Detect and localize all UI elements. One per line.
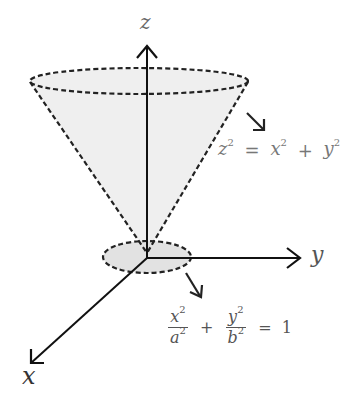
ellipse-eq-rhs: 1 — [282, 318, 292, 337]
cone-eq-equals: = — [245, 140, 260, 161]
cone-eq-term2: y — [324, 138, 334, 159]
ellipse-eq-frac-x: x2 a2 — [168, 307, 188, 348]
ellipse-eq-den-b: b2 — [226, 328, 247, 348]
cone-eq-lhs-exp: 2 — [227, 137, 233, 148]
ellipse-eq-equals: = — [258, 318, 271, 337]
z-axis-label: z — [140, 10, 151, 34]
x-axis — [31, 258, 147, 363]
ellipse-equation: x2 a2 + y2 b2 = 1 — [166, 307, 297, 348]
ellipse-eq-frac-y: y2 b2 — [226, 307, 247, 348]
cone-eq-plus: + — [298, 140, 313, 161]
cone-pointer-arrow — [247, 113, 263, 129]
cone-eq-term1: x — [270, 138, 280, 159]
ellipse-eq-plus: + — [200, 318, 213, 337]
cone-equation: z2 = x2 + y2 — [218, 138, 340, 161]
cone-surface — [30, 69, 248, 253]
ellipse-eq-den-a: a2 — [168, 328, 188, 348]
cone-eq-term2-exp: 2 — [334, 137, 340, 148]
cone-eq-term1-exp: 2 — [281, 137, 287, 148]
x-axis-label: x — [22, 362, 36, 390]
y-axis-label: y — [311, 242, 323, 267]
